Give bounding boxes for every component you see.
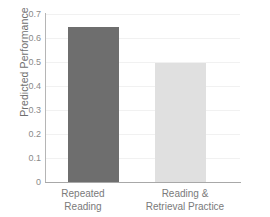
y-axis-tick-labels: 0.7 0.6 0.5 0.4 0.3 0.2 0.1 0 (0, 0, 41, 217)
y-tick-label: 0.5 (1, 58, 41, 67)
x-label-line: Retrieval Practice (124, 201, 246, 214)
y-tick-label: 0.6 (1, 34, 41, 43)
y-tick-label: 0.4 (1, 82, 41, 91)
y-tick-label: 0.3 (1, 106, 41, 115)
x-axis-label-reading-retrieval-practice: Reading & Retrieval Practice (124, 188, 246, 213)
y-tick-label: 0 (1, 178, 41, 187)
bar-reading-retrieval-practice (155, 63, 206, 182)
y-tick-label: 0.7 (1, 10, 41, 19)
x-label-line: Reading & (124, 188, 246, 201)
bar-repeated-reading (68, 27, 119, 182)
x-label-line: Reading (38, 201, 128, 214)
x-axis-line (45, 182, 241, 183)
bars-layer (45, 14, 240, 182)
y-tick-label: 0.1 (1, 154, 41, 163)
x-label-line: Repeated (38, 188, 128, 201)
bar-chart: Predicted Performance 0.7 0.6 0.5 0.4 0.… (0, 0, 270, 217)
y-tick-label: 0.2 (1, 130, 41, 139)
x-axis-label-repeated-reading: Repeated Reading (38, 188, 128, 213)
